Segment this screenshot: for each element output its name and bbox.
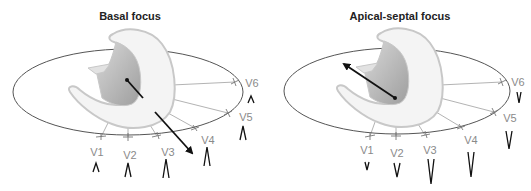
qrs-v4	[468, 152, 474, 177]
lead-label-v2: V2	[123, 149, 136, 161]
qrs-v5	[240, 126, 246, 140]
qrs-v4	[204, 147, 210, 166]
lead-label-v4: V4	[201, 134, 214, 146]
lead-label-v1: V1	[360, 144, 373, 156]
heart-illustration	[69, 29, 175, 128]
panel-title: Basal focus	[99, 10, 161, 22]
lead-label-v5: V5	[239, 111, 252, 123]
lead-label-v2: V2	[390, 147, 403, 159]
qrs-v1	[365, 162, 369, 170]
qrs-v3	[428, 159, 434, 184]
lead-label-v6: V6	[245, 77, 258, 89]
panel-title: Apical-septal focus	[350, 10, 451, 22]
qrs-v6	[248, 96, 254, 103]
qrs-v2	[125, 163, 131, 177]
qrs-v6	[517, 92, 521, 103]
heart-illustration	[337, 28, 443, 127]
qrs-v3	[163, 159, 169, 178]
lead-label-v6: V6	[511, 76, 524, 88]
panel-basal-focus: Basal focus	[13, 10, 259, 178]
qrs-v1	[93, 163, 99, 172]
qrs-v2	[394, 163, 400, 177]
lead-label-v3: V3	[423, 144, 436, 156]
lead-label-v3: V3	[161, 146, 174, 158]
panel-apical-septal-focus: Apical-septal focus	[284, 10, 525, 184]
qrs-v5	[506, 131, 512, 149]
diagram-canvas: Basal focus	[0, 0, 531, 191]
lead-label-v5: V5	[503, 112, 516, 124]
lead-label-v1: V1	[90, 146, 103, 158]
lead-label-v4: V4	[464, 134, 477, 146]
